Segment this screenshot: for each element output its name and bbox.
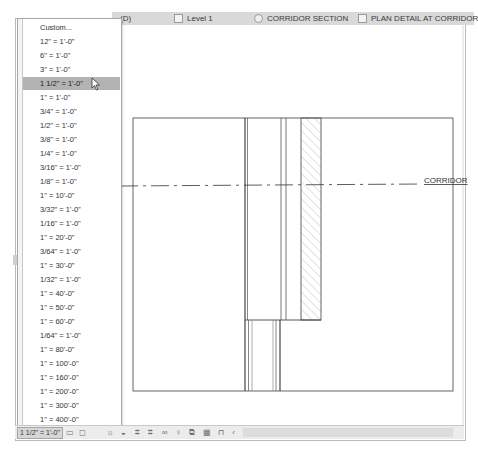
scale-dropdown-list[interactable]: Custom... 12" = 1'-0" 6" = 1'-0" 3" = 1'… (17, 18, 122, 426)
scale-option[interactable]: 1" = 160'-0" (23, 371, 120, 384)
scale-option[interactable]: 1" = 100'-0" (23, 357, 120, 370)
section-line (120, 184, 422, 186)
mouse-cursor-icon (91, 77, 101, 91)
scale-option[interactable]: 1" = 60'-0" (23, 315, 120, 328)
scale-option[interactable]: 3" = 1'-0" (23, 63, 120, 76)
reveal-constraints-icon[interactable]: ⊓ (216, 428, 225, 437)
shadows-icon[interactable]: ◒ (119, 428, 128, 437)
temporary-hide-icon[interactable]: ∞ (160, 428, 169, 437)
scale-option[interactable]: 1" = 30'-0" (23, 259, 120, 272)
scale-option[interactable]: 1" = 50'-0" (23, 301, 120, 314)
scale-option[interactable]: 3/8" = 1'-0" (23, 133, 120, 146)
scale-option[interactable]: 1" = 40'-0" (23, 287, 120, 300)
sun-path-icon[interactable]: ☼ (106, 428, 115, 437)
scale-option[interactable]: 1" = 20'-0" (23, 231, 120, 244)
crop-view-icon[interactable]: ⌗ (133, 428, 142, 437)
scale-option[interactable]: 1" = 1'-0" (23, 91, 120, 104)
scale-option[interactable]: 1" = 200'-0" (23, 385, 120, 398)
scale-option[interactable]: 3/16" = 1'-0" (23, 161, 120, 174)
scale-option[interactable]: 3/64" = 1'-0" (23, 245, 120, 258)
scale-option[interactable]: 1/8" = 1'-0" (23, 175, 120, 188)
scale-option[interactable]: 1/32" = 1'-0" (23, 273, 120, 286)
scale-option[interactable]: 12" = 1'-0" (23, 35, 120, 48)
scale-option[interactable]: 1/2" = 1'-0" (23, 119, 120, 132)
scale-option[interactable]: 1/16" = 1'-0" (23, 217, 120, 230)
view-scale-button[interactable]: 1 1/2" = 1'-0" (17, 427, 63, 439)
scale-option[interactable]: 6" = 1'-0" (23, 49, 120, 62)
show-crop-region-icon[interactable]: ⌗ (146, 428, 155, 437)
worksharing-display-icon[interactable]: ▦ (202, 428, 211, 437)
reveal-hidden-icon[interactable]: ♀ (174, 428, 183, 437)
section-label: CORRIDOR (424, 176, 468, 185)
scale-option[interactable]: 1/4" = 1'-0" (23, 147, 120, 160)
visual-style-icon[interactable]: ◻ (78, 428, 87, 437)
scale-option[interactable]: 1" = 10'-0" (23, 189, 120, 202)
scale-option[interactable]: 3/4" = 1'-0" (23, 105, 120, 118)
crop-region (133, 118, 453, 391)
scale-option[interactable]: 1/64" = 1'-0" (23, 329, 120, 342)
scroll-left-icon[interactable]: ‹ (229, 428, 238, 437)
detail-level-icon[interactable]: ▭ (65, 428, 74, 437)
scale-option[interactable]: 3/32" = 1'-0" (23, 203, 120, 216)
view-control-bar: 1 1/2" = 1'-0" ▭ ◻ ☼ ◒ ⌗ ⌗ ∞ ♀ ⧉ ▦ ⊓ ‹ (15, 425, 464, 439)
hatched-wall (301, 118, 321, 320)
temporary-view-properties-icon[interactable]: ⧉ (187, 428, 196, 437)
horizontal-scrollbar[interactable] (243, 428, 453, 437)
scale-option[interactable]: 1" = 80'-0" (23, 343, 120, 356)
scale-option-highlighted[interactable]: 1 1/2" = 1'-0" (23, 77, 120, 90)
scale-option[interactable]: 1" = 300'-0" (23, 399, 120, 412)
scale-option[interactable]: Custom... (23, 21, 120, 34)
